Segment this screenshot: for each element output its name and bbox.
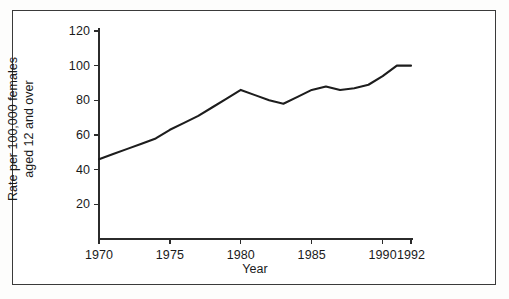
y-tick-label-120: 120 [58,24,90,38]
y-tick-label-20: 20 [58,197,90,211]
y-axis-ticks [94,31,99,204]
x-tick-label-1985: 1985 [298,248,326,262]
chart-figure: 20406080100120 197019751980198519901992 … [0,0,509,299]
x-tick-label-1992: 1992 [397,248,425,262]
x-axis-title: Year [242,262,267,276]
y-tick-label-40: 40 [58,163,90,177]
y-axis-title-line-1: Rate per 100,000 females [6,57,22,201]
x-tick-label-1970: 1970 [85,248,113,262]
y-axis-title-line-2: aged 12 and over [22,57,38,201]
y-tick-label-80: 80 [58,93,90,107]
y-tick-label-100: 100 [58,59,90,73]
x-tick-label-1975: 1975 [156,248,184,262]
x-tick-label-1990: 1990 [369,248,397,262]
data-series-line [99,66,411,160]
y-axis-title: Rate per 100,000 females aged 12 and ove… [6,57,37,201]
x-axis-ticks [99,239,411,244]
x-tick-label-1980: 1980 [227,248,255,262]
y-tick-label-60: 60 [58,128,90,142]
